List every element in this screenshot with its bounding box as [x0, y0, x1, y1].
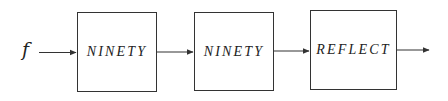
block-ninety-1: NINETY [77, 12, 157, 92]
block-label: NINETY [87, 44, 148, 60]
block-reflect: REFLECT [310, 10, 397, 90]
block-label: REFLECT [316, 42, 391, 58]
block-label: NINETY [204, 44, 265, 60]
block-ninety-2: NINETY [194, 12, 274, 91]
input-label-f: f [22, 38, 29, 60]
